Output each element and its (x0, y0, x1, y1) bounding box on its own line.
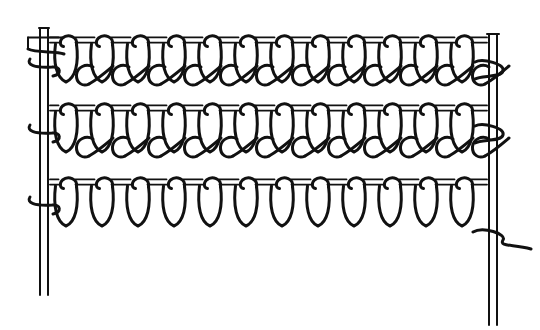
stitch-diagram-root: Knitted loop structure diagram (0, 0, 540, 330)
knitted-loop-diagram (0, 0, 540, 330)
